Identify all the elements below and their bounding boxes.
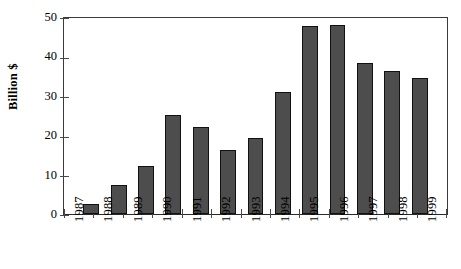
- y-tick-label-40: 40: [31, 50, 57, 62]
- x-tick-mark-6: [241, 209, 242, 218]
- y-axis-title: Billion $: [6, 10, 24, 110]
- x-tick-mark-5: [211, 209, 212, 218]
- x-tick-label-1989: 1989: [131, 178, 146, 222]
- y-tick-mark-50: [60, 18, 69, 19]
- x-tick-label-1993: 1993: [249, 178, 264, 222]
- y-tick-label-10: 10: [31, 169, 57, 181]
- x-tick-label-1991: 1991: [190, 178, 205, 222]
- y-tick-mark-30: [60, 97, 69, 98]
- x-tick-label-1999: 1999: [425, 178, 440, 222]
- x-tick-label-1997: 1997: [366, 178, 381, 222]
- y-tick-label-30: 30: [31, 90, 57, 102]
- bar-chart: Billion $ 50 40 30 20 10 0: [0, 0, 461, 269]
- y-tick-mark-10: [60, 176, 69, 177]
- x-tick-label-1998: 1998: [396, 178, 411, 222]
- x-tick-mark-0: [64, 209, 65, 218]
- x-tick-label-1996: 1996: [337, 178, 352, 222]
- x-tick-mark-13: [446, 209, 447, 218]
- x-tick-label-1990: 1990: [160, 178, 175, 222]
- y-tick-mark-40: [60, 58, 69, 59]
- x-tick-label-1995: 1995: [307, 178, 322, 222]
- y-tick-mark-20: [60, 137, 69, 138]
- x-tick-label-1994: 1994: [278, 178, 293, 222]
- y-tick-label-50: 50: [31, 11, 57, 23]
- x-tick-mark-7: [270, 209, 271, 218]
- x-tick-mark-8: [299, 209, 300, 218]
- y-tick-label-20: 20: [31, 129, 57, 141]
- x-tick-label-1992: 1992: [219, 178, 234, 222]
- x-tick-label-1988: 1988: [101, 178, 116, 222]
- y-tick-label-0: 0: [31, 208, 57, 220]
- x-tick-mark-4: [182, 209, 183, 218]
- x-tick-label-1987: 1987: [72, 178, 87, 222]
